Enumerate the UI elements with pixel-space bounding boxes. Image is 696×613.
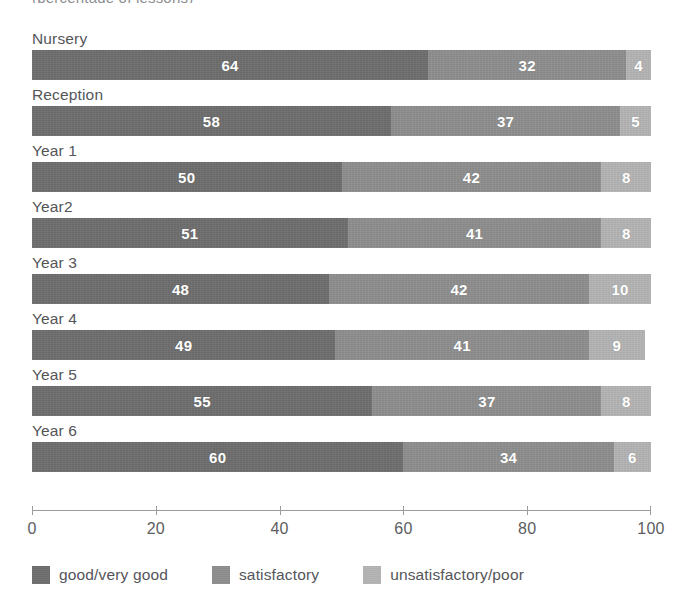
- bar-segment: 42: [329, 274, 589, 304]
- x-axis-tick-label: 20: [147, 520, 165, 538]
- bar-segment: 55: [32, 386, 372, 416]
- x-axis-tick: [280, 506, 281, 515]
- bar-segment: 6: [614, 442, 651, 472]
- x-axis: 020406080100: [32, 510, 651, 550]
- bar-segment: 42: [342, 162, 602, 192]
- bar-segment: 49: [32, 330, 335, 360]
- bar-segment-value: 51: [181, 226, 198, 241]
- x-axis-tick: [403, 506, 404, 515]
- bar-segment-value: 8: [622, 170, 631, 185]
- bar-segment-value: 32: [519, 58, 536, 73]
- chart-row: Nursery64324: [32, 28, 651, 84]
- chart-row: Year 555378: [32, 364, 651, 420]
- stacked-bar: 484210: [32, 274, 651, 304]
- stacked-bar: 51418: [32, 218, 651, 248]
- bar-segment: 41: [348, 218, 602, 248]
- stacked-bar: 49419: [32, 330, 651, 360]
- chart-row: Year 3484210: [32, 252, 651, 308]
- bar-segment-value: 42: [450, 282, 467, 297]
- bar-segment: 34: [403, 442, 613, 472]
- bar-segment: 9: [589, 330, 645, 360]
- x-axis-tick: [650, 506, 651, 515]
- bar-segment: 64: [32, 50, 428, 80]
- bar-segment-value: 49: [175, 338, 192, 353]
- bar-segment: 50: [32, 162, 342, 192]
- bar-segment-value: 42: [463, 170, 480, 185]
- row-label: Year 3: [32, 252, 651, 274]
- chart-legend: good/very goodsatisfactoryunsatisfactory…: [32, 563, 568, 587]
- x-axis-tick: [527, 506, 528, 515]
- bar-segment-value: 64: [221, 58, 238, 73]
- bar-segment: 58: [32, 106, 391, 136]
- row-label: Year 1: [32, 140, 651, 162]
- stacked-bar: 58375: [32, 106, 651, 136]
- bar-segment: 51: [32, 218, 348, 248]
- bar-segment-value: 48: [172, 282, 189, 297]
- x-axis-tick: [156, 506, 157, 515]
- bar-segment-value: 6: [628, 450, 637, 465]
- bar-segment-value: 60: [209, 450, 226, 465]
- bar-segment: 8: [601, 162, 651, 192]
- bar-segment-value: 10: [611, 282, 628, 297]
- chart-row: Year 150428: [32, 140, 651, 196]
- legend-item[interactable]: good/very good: [32, 566, 168, 584]
- bar-segment: 5: [620, 106, 651, 136]
- x-axis-line: [32, 510, 651, 511]
- row-label: Year 6: [32, 420, 651, 442]
- bar-segment-value: 37: [497, 114, 514, 129]
- bar-segment-value: 55: [194, 394, 211, 409]
- bar-segment-value: 9: [613, 338, 622, 353]
- x-axis-tick-label: 40: [270, 520, 288, 538]
- row-label: Year 4: [32, 308, 651, 330]
- bar-segment-value: 50: [178, 170, 195, 185]
- bar-segment-value: 8: [622, 394, 631, 409]
- bar-segment-value: 41: [454, 338, 471, 353]
- legend-swatch-icon: [212, 566, 230, 584]
- chart-row: Year 449419: [32, 308, 651, 364]
- bar-segment-value: 37: [478, 394, 495, 409]
- legend-label: good/very good: [59, 566, 168, 584]
- row-label: Reception: [32, 84, 651, 106]
- row-label: Year 5: [32, 364, 651, 386]
- bar-segment: 8: [601, 386, 651, 416]
- bar-segment: 37: [391, 106, 620, 136]
- stacked-bar: 55378: [32, 386, 651, 416]
- row-label: Nursery: [32, 28, 651, 50]
- bar-segment: 32: [428, 50, 626, 80]
- bar-segment-value: 58: [203, 114, 220, 129]
- legend-label: unsatisfactory/poor: [390, 566, 524, 584]
- bar-segment: 8: [601, 218, 651, 248]
- bar-segment: 37: [372, 386, 601, 416]
- row-label: Year2: [32, 196, 651, 218]
- legend-item[interactable]: unsatisfactory/poor: [363, 566, 524, 584]
- bar-segment-value: 5: [631, 114, 640, 129]
- bar-segment-value: 41: [466, 226, 483, 241]
- legend-swatch-icon: [32, 566, 50, 584]
- bar-segment-value: 8: [622, 226, 631, 241]
- x-axis-tick-label: 100: [637, 520, 664, 538]
- stacked-bar: 64324: [32, 50, 651, 80]
- stacked-bar-chart: Nursery64324Reception58375Year 150428Yea…: [0, 0, 696, 613]
- stacked-bar: 60346: [32, 442, 651, 472]
- chart-row: Reception58375: [32, 84, 651, 140]
- legend-item[interactable]: satisfactory: [212, 566, 319, 584]
- x-axis-tick-label: 0: [27, 520, 36, 538]
- legend-swatch-icon: [363, 566, 381, 584]
- bar-segment-value: 4: [634, 58, 643, 73]
- bar-segment: 4: [626, 50, 651, 80]
- bar-segment: 48: [32, 274, 329, 304]
- chart-row: Year 660346: [32, 420, 651, 476]
- bar-segment: 41: [335, 330, 589, 360]
- x-axis-tick-label: 60: [394, 520, 412, 538]
- stacked-bar: 50428: [32, 162, 651, 192]
- bar-segment: 10: [589, 274, 651, 304]
- x-axis-tick: [32, 506, 33, 515]
- bar-segment: 60: [32, 442, 403, 472]
- chart-row: Year251418: [32, 196, 651, 252]
- chart-rows: Nursery64324Reception58375Year 150428Yea…: [32, 28, 651, 476]
- bar-segment-value: 34: [500, 450, 517, 465]
- x-axis-tick-label: 80: [518, 520, 536, 538]
- legend-label: satisfactory: [239, 566, 319, 584]
